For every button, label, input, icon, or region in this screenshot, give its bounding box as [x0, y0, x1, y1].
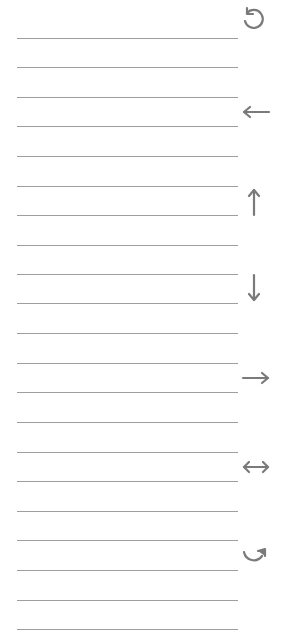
rotate-clockwise-icon[interactable]: [240, 542, 270, 572]
ruled-line: [17, 186, 238, 187]
ruled-line: [17, 629, 238, 630]
ruled-line: [17, 274, 238, 275]
arrow-right-icon[interactable]: [241, 363, 271, 393]
ruled-line: [17, 422, 238, 423]
ruled-line: [17, 245, 238, 246]
arrow-up-icon[interactable]: [239, 187, 269, 217]
arrow-left-right-icon[interactable]: [241, 452, 271, 482]
ruled-line: [17, 215, 238, 216]
ruled-line: [17, 392, 238, 393]
ruled-line: [17, 126, 238, 127]
ruled-line: [17, 600, 238, 601]
ruled-line: [17, 540, 238, 541]
ruled-line: [17, 38, 238, 39]
arrow-left-icon[interactable]: [241, 97, 271, 127]
ruled-line: [17, 363, 238, 364]
ruled-line: [17, 333, 238, 334]
arrow-down-icon[interactable]: [239, 273, 269, 303]
ruled-line: [17, 481, 238, 482]
ruled-line: [17, 97, 238, 98]
rotate-counterclockwise-icon[interactable]: [238, 4, 268, 34]
ruled-line: [17, 303, 238, 304]
ruled-line: [17, 156, 238, 157]
ruled-line: [17, 570, 238, 571]
ruled-line: [17, 67, 238, 68]
ruled-line: [17, 511, 238, 512]
ruled-line: [17, 452, 238, 453]
